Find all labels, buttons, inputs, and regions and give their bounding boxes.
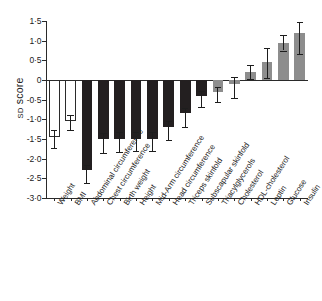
error-bar-stem bbox=[86, 165, 87, 183]
error-bar-cap bbox=[297, 54, 303, 55]
error-bar-cap bbox=[231, 77, 237, 78]
error-bar-stem bbox=[119, 132, 120, 151]
error-bar-cap bbox=[264, 48, 270, 49]
error-bar-cap bbox=[84, 183, 90, 184]
error-bar-cap bbox=[100, 153, 106, 154]
error-bar-cap bbox=[198, 91, 204, 92]
bar bbox=[49, 80, 60, 137]
error-bar-stem bbox=[234, 77, 235, 98]
error-bar-cap bbox=[264, 78, 270, 79]
error-bar-cap bbox=[100, 133, 106, 134]
y-axis-line bbox=[46, 21, 47, 198]
error-bar-cap bbox=[51, 148, 57, 149]
y-tick-label: -1·0 bbox=[27, 114, 44, 124]
y-axis-label-smallcaps: SD bbox=[16, 107, 25, 118]
error-bar-stem bbox=[185, 108, 186, 127]
error-bar-stem bbox=[217, 87, 218, 102]
error-bar-cap bbox=[297, 22, 303, 23]
bar bbox=[98, 80, 109, 139]
error-bar-stem bbox=[54, 130, 55, 147]
error-bar-stem bbox=[70, 115, 71, 130]
error-bar-cap bbox=[247, 79, 253, 80]
error-bar-cap bbox=[231, 98, 237, 99]
bar bbox=[82, 80, 93, 170]
y-tick-label: 0·5 bbox=[29, 55, 43, 65]
error-bar-stem bbox=[283, 35, 284, 51]
error-bar-stem bbox=[267, 48, 268, 78]
error-bar-cap bbox=[215, 102, 221, 103]
error-bar-stem bbox=[299, 22, 300, 55]
error-bar-cap bbox=[67, 130, 73, 131]
y-axis-label-rest: score bbox=[13, 78, 25, 108]
bar bbox=[147, 80, 158, 139]
y-tick-label: -2·5 bbox=[27, 173, 44, 183]
error-bar-cap bbox=[116, 132, 122, 133]
y-axis-label: SD score bbox=[13, 43, 25, 153]
error-bar-stem bbox=[152, 132, 153, 151]
error-bar-stem bbox=[168, 121, 169, 139]
y-tick-label: -2·0 bbox=[27, 154, 44, 164]
error-bar-cap bbox=[198, 107, 204, 108]
bar bbox=[114, 80, 125, 139]
y-tick-label: 1·0 bbox=[29, 36, 43, 46]
error-bar-cap bbox=[247, 65, 253, 66]
error-bar-cap bbox=[166, 140, 172, 141]
figure: SD score 1·51·00·50-0·5-1·0-1·5-2·0-2·5-… bbox=[0, 0, 322, 301]
error-bar-cap bbox=[67, 115, 73, 116]
error-bar-cap bbox=[182, 127, 188, 128]
error-bar-cap bbox=[51, 130, 57, 131]
error-bar-cap bbox=[149, 151, 155, 152]
bar bbox=[163, 80, 174, 127]
error-bar-stem bbox=[103, 133, 104, 153]
y-tick-label: -0·5 bbox=[27, 95, 44, 105]
error-bar-cap bbox=[215, 87, 221, 88]
y-tick-label: 1·5 bbox=[29, 16, 43, 26]
error-bar-cap bbox=[280, 51, 286, 52]
y-tick-label: -1·5 bbox=[27, 134, 44, 144]
error-bar-stem bbox=[201, 91, 202, 107]
error-bar-cap bbox=[182, 108, 188, 109]
y-tick-label: -3·0 bbox=[27, 193, 44, 203]
error-bar-cap bbox=[280, 35, 286, 36]
y-tick-label: 0 bbox=[37, 75, 44, 85]
error-bar-cap bbox=[84, 165, 90, 166]
error-bar-stem bbox=[250, 65, 251, 79]
error-bar-cap bbox=[166, 121, 172, 122]
error-bar-cap bbox=[149, 132, 155, 133]
